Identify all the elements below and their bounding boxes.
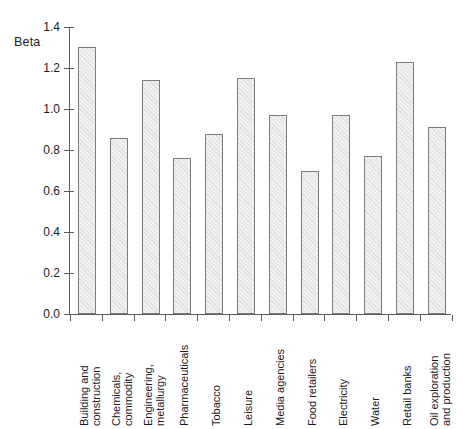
x-axis-tick xyxy=(261,315,262,321)
y-axis-tick xyxy=(64,314,74,315)
bar xyxy=(332,115,350,314)
bar xyxy=(396,62,414,314)
y-axis-tick-label-text: 1.4 xyxy=(30,21,60,33)
bar xyxy=(301,171,319,314)
y-axis-tick xyxy=(64,109,74,110)
x-axis-tick xyxy=(102,315,103,321)
y-axis-tick-label: 1.2 xyxy=(28,62,60,74)
x-axis-tick xyxy=(324,315,325,321)
bar xyxy=(173,158,191,314)
y-axis-tick xyxy=(64,150,74,151)
bar xyxy=(205,134,223,314)
bar xyxy=(110,138,128,314)
y-axis-tick-label-text: 0.6 xyxy=(30,185,60,197)
bar xyxy=(237,78,255,314)
x-axis-tick xyxy=(388,315,389,321)
bar xyxy=(364,156,382,314)
y-axis-tick-label-text: 0.4 xyxy=(30,226,60,238)
x-axis-category-label: Electricity xyxy=(338,379,350,426)
y-axis-tick-label: 0.4 xyxy=(28,226,60,238)
y-axis-tick xyxy=(64,273,74,274)
y-axis-tick xyxy=(64,68,74,69)
x-axis-category-label: Building andconstruction xyxy=(79,365,102,426)
x-axis-category-label: Engineering,metallurgy xyxy=(143,364,166,426)
y-axis-tick-label: 0.0 xyxy=(28,308,60,320)
bar xyxy=(142,80,160,314)
y-axis-tick-label-text: 0.0 xyxy=(30,308,60,320)
y-axis-tick-label-text: 1.2 xyxy=(30,62,60,74)
x-axis-category-label: Water xyxy=(370,397,382,426)
x-axis-tick xyxy=(452,315,453,321)
x-axis-tick xyxy=(197,315,198,321)
x-axis-category-label: Leisure xyxy=(243,390,255,426)
x-axis-tick xyxy=(134,315,135,321)
bar xyxy=(269,115,287,314)
x-axis-category-label: Food retailers xyxy=(307,359,319,426)
y-axis-tick xyxy=(64,191,74,192)
x-axis-category-label: Pharmaceuticals xyxy=(179,345,191,426)
y-axis-tick-label: 1.0 xyxy=(28,103,60,115)
bar xyxy=(78,47,96,314)
x-axis-tick xyxy=(165,315,166,321)
x-axis-tick xyxy=(420,315,421,321)
y-axis-tick xyxy=(64,232,74,233)
y-axis-tick-label-text: 0.8 xyxy=(30,144,60,156)
beta-bar-chart: Beta 0.00.20.40.60.81.01.21.4Building an… xyxy=(0,0,463,429)
y-axis-tick-label: 1.4 xyxy=(28,21,60,33)
x-axis-tick xyxy=(293,315,294,321)
x-axis-tick xyxy=(70,315,71,321)
y-axis-tick-label: 0.6 xyxy=(28,185,60,197)
x-axis-category-label: Tobacco xyxy=(211,385,223,426)
x-axis-tick xyxy=(356,315,357,321)
y-axis-tick-label-text: 0.2 xyxy=(30,267,60,279)
y-axis-tick-label-text: 1.0 xyxy=(30,103,60,115)
bar xyxy=(428,127,446,314)
y-axis-tick xyxy=(64,27,74,28)
x-axis-category-label: Chemicals,commodity xyxy=(111,372,134,426)
x-axis-category-label: Oil explorationand production xyxy=(429,353,452,426)
x-axis-line xyxy=(69,314,451,315)
x-axis-category-label: Retail banks xyxy=(402,365,414,426)
x-axis-tick xyxy=(229,315,230,321)
y-axis-line xyxy=(69,27,70,315)
x-axis-category-label: Media agencies xyxy=(275,349,287,426)
y-axis-tick-label: 0.8 xyxy=(28,144,60,156)
y-axis-tick-label: 0.2 xyxy=(28,267,60,279)
plot-area: 0.00.20.40.60.81.01.21.4Building andcons… xyxy=(0,0,463,429)
